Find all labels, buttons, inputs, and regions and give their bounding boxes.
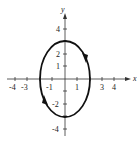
y-tick-label: 4 <box>56 25 60 34</box>
x-axis-arrow-icon <box>125 77 131 81</box>
x-tick-label: 4 <box>112 83 116 92</box>
x-tick-label: -4 <box>9 83 16 92</box>
y-tick-label: 2 <box>56 50 60 59</box>
x-tick-label: 3 <box>100 83 104 92</box>
y-tick-label: -2 <box>52 100 59 109</box>
y-axis-label: y <box>60 5 65 14</box>
x-tick-label: -1 <box>46 83 53 92</box>
x-axis-label: x <box>132 74 137 83</box>
ellipse-plot: x y -4 -3 -1 1 3 4 4 <box>0 0 137 143</box>
y-tick-label: 1 <box>56 62 60 71</box>
plot-canvas: x y -4 -3 -1 1 3 4 4 <box>0 0 137 143</box>
x-tick-label: -3 <box>21 83 28 92</box>
y-tick-label: -4 <box>52 125 59 134</box>
x-tick-label: 1 <box>75 83 79 92</box>
